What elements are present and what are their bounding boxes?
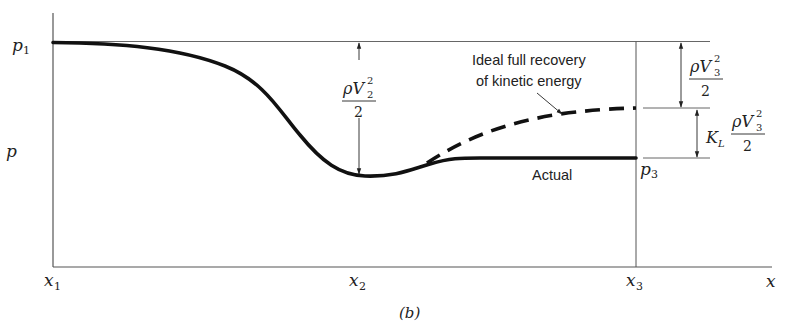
ideal-recovery-curve xyxy=(427,108,636,163)
svg-text:ρV: ρV xyxy=(731,112,754,131)
ideal-label-line1: Ideal full recovery xyxy=(472,52,586,68)
svg-text:x: x xyxy=(626,270,636,290)
x3-label: x 3 xyxy=(626,270,643,293)
svg-text:2: 2 xyxy=(756,108,762,119)
svg-text:3: 3 xyxy=(636,280,643,293)
svg-text:ρV: ρV xyxy=(689,57,712,76)
y-axis-label: p xyxy=(6,141,17,161)
svg-text:x: x xyxy=(44,270,54,290)
actual-label: Actual xyxy=(532,167,572,183)
dynamic-pressure-v3-label: ρV 2 3 2 xyxy=(689,53,723,99)
loss-coefficient-label: K L ρV 2 3 2 xyxy=(705,108,765,154)
ideal-label-line2: of kinetic energy xyxy=(476,73,582,89)
pressure-distribution-diagram: p x p 1 p 3 x 1 x 2 x 3 (b) Ideal full r… xyxy=(0,0,789,333)
svg-text:1: 1 xyxy=(23,44,30,57)
svg-text:2: 2 xyxy=(367,89,373,100)
svg-text:3: 3 xyxy=(756,122,762,133)
svg-text:K: K xyxy=(705,128,719,147)
svg-text:x: x xyxy=(349,270,359,290)
svg-text:ρV: ρV xyxy=(342,79,365,98)
svg-text:2: 2 xyxy=(354,104,363,120)
svg-text:2: 2 xyxy=(714,53,720,64)
figure-caption: (b) xyxy=(399,304,420,322)
x1-label: x 1 xyxy=(44,270,61,293)
x-axis-label: x xyxy=(766,271,776,291)
svg-text:2: 2 xyxy=(367,75,373,86)
svg-text:3: 3 xyxy=(651,168,658,181)
svg-text:p: p xyxy=(12,35,23,55)
svg-text:2: 2 xyxy=(701,83,710,99)
svg-text:3: 3 xyxy=(714,67,720,78)
p3-label: p 3 xyxy=(640,159,658,181)
svg-text:2: 2 xyxy=(743,138,752,154)
svg-text:2: 2 xyxy=(359,280,366,293)
svg-text:1: 1 xyxy=(54,280,61,293)
svg-text:p: p xyxy=(640,159,651,179)
ideal-label-leader-arrow xyxy=(537,93,562,114)
svg-text:L: L xyxy=(717,138,725,149)
x2-label: x 2 xyxy=(349,270,366,293)
p1-label: p 1 xyxy=(12,35,30,57)
